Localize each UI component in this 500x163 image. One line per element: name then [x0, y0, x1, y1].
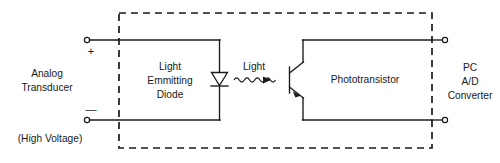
- phototransistor-label: Phototransistor: [331, 74, 400, 85]
- circuit-schematic: + — Analog Transducer (High Voltage) Lig…: [0, 0, 500, 163]
- input-positive-sign: +: [88, 45, 94, 57]
- input-negative-sign: —: [86, 103, 97, 115]
- pc-ad-converter-label-line3: Converter: [448, 90, 493, 101]
- led-label-line3: Diode: [157, 89, 184, 100]
- high-voltage-note: (High Voltage): [18, 133, 83, 144]
- input-positive-terminal: [84, 37, 89, 42]
- optocoupler-diagram: + — Analog Transducer (High Voltage) Lig…: [0, 0, 500, 163]
- led-label-line1: Light: [159, 61, 181, 72]
- led-triangle-icon: [212, 73, 228, 86]
- transistor-collector-lead: [290, 62, 304, 73]
- light-label: Light: [243, 61, 265, 72]
- analog-transducer-label-line1: Analog: [31, 68, 63, 79]
- output-top-terminal: [442, 37, 447, 42]
- input-negative-terminal: [84, 117, 89, 122]
- pc-ad-converter-label-line2: A/D: [462, 76, 479, 87]
- led-label-line2: Emmitting: [147, 75, 193, 86]
- pc-ad-converter-label-line1: PC: [463, 62, 477, 73]
- analog-transducer-label-line2: Transducer: [21, 82, 73, 93]
- output-bottom-terminal: [442, 117, 447, 122]
